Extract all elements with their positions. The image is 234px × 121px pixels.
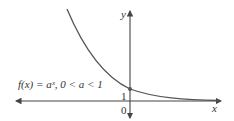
tick-label-zero: 0 [121, 105, 127, 116]
y-axis-label: y [121, 9, 126, 20]
function-label: f(x) = aˣ, 0 < a < 1 [18, 79, 103, 90]
x-axis-label: x [212, 103, 217, 114]
tick-label-one: 1 [121, 91, 127, 102]
y-intercept-point [128, 87, 132, 91]
chart-canvas [0, 0, 234, 121]
